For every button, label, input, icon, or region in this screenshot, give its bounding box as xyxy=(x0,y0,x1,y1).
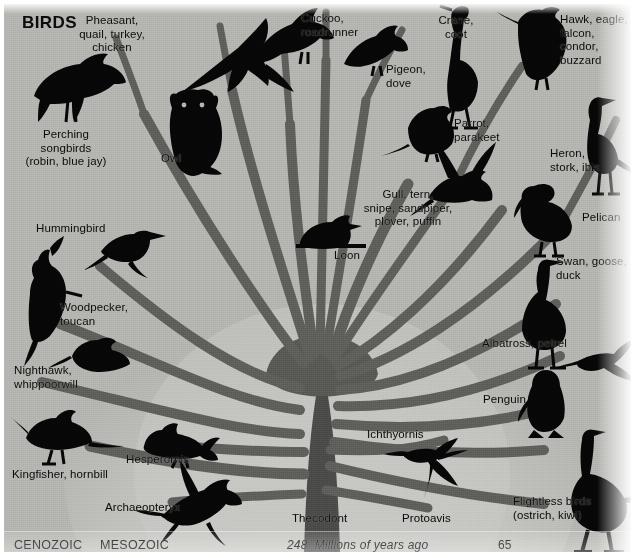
label-penguin: Penguin xyxy=(483,393,526,407)
pelican-standing xyxy=(514,184,572,256)
label-pheasant: Pheasant, quail, turkey, chicken xyxy=(79,14,145,55)
label-pelican: Pelican xyxy=(582,211,620,225)
label-ichthyornis: Ichthyornis xyxy=(367,428,424,442)
label-protoavis: Protoavis xyxy=(402,512,451,526)
label-pigeon: Pigeon, dove xyxy=(386,63,426,90)
label-kingfisher: Kingfisher, hornbill xyxy=(12,468,108,482)
label-woodpecker: Woodpecker, toucan xyxy=(60,301,128,328)
kingfisher-perched xyxy=(12,410,124,464)
label-hesperornis: Hesperornis xyxy=(126,453,189,467)
label-hummingbird: Hummingbird xyxy=(36,222,105,236)
label-thecodont: Thecodont xyxy=(292,512,347,526)
ichthyornis-flying xyxy=(384,438,468,498)
baseline-strip xyxy=(4,532,631,552)
hawk-perched xyxy=(494,7,567,90)
label-perching: Perching songbirds (robin, blue jay) xyxy=(26,128,107,169)
label-heron: Heron, stork, ibis xyxy=(550,147,600,174)
label-birds-title: BIRDS xyxy=(22,16,77,30)
label-nighthawk: Nighthawk, whippoorwill xyxy=(14,364,78,391)
bird-evolution-figure: BIRDSPheasant, quail, turkey, chickenCuc… xyxy=(0,0,644,558)
heron-standing xyxy=(587,97,631,194)
crow-silhouette xyxy=(34,53,126,122)
label-parrot: Parrot, parakeet xyxy=(454,117,500,144)
label-gull: Gull. tern, snipe, sandpiper, plover, pu… xyxy=(364,188,453,229)
label-owl: Owl xyxy=(161,152,181,166)
label-crane: Crane, coot xyxy=(438,14,473,41)
label-albatross: Albatross, petrel xyxy=(482,337,567,351)
loon-swimming xyxy=(296,215,366,249)
label-flightless: Flightless birds (ostrich, kiwi) xyxy=(513,495,591,522)
figure-plate: BIRDSPheasant, quail, turkey, chickenCuc… xyxy=(4,4,631,552)
label-archaeopteryx: Archaeopteryx xyxy=(105,501,180,515)
label-loon: Loon xyxy=(334,249,360,263)
hummingbird-hovering xyxy=(84,231,166,278)
pheasant-flying xyxy=(182,18,294,92)
label-hawk: Hawk, eagle, falcon, condor, buzzard xyxy=(560,13,628,67)
label-cuckoo: Cuckoo, roadrunner xyxy=(301,12,358,39)
label-swan: Swan, goose, duck xyxy=(556,255,627,282)
